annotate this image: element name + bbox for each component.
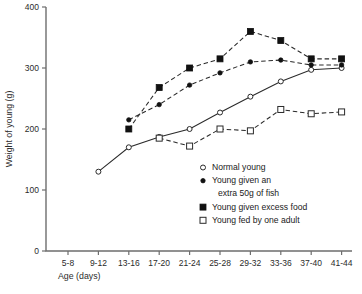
y-axis-tick-label: 400 [25,2,39,12]
data-point-open-circle [218,110,223,115]
legend-label-continued: extra 50g of fish [218,188,279,198]
data-point-filled-circle [218,71,222,75]
data-point-open-circle [96,169,101,174]
data-point-filled-circle [127,118,131,122]
data-point-filled-circle [309,63,313,67]
legend: Normal youngYoung given anextra 50g of f… [200,162,307,225]
data-point-open-square [156,135,162,141]
x-axis-tick-label: 17-20 [148,258,170,268]
data-point-open-circle [201,165,206,170]
x-axis-tick-label: 37-40 [300,258,322,268]
axis-lines [46,7,352,251]
data-point-open-square [247,128,253,134]
data-point-filled-square [278,38,284,44]
data-point-open-square [308,111,314,117]
x-axis-tick-label: 13-16 [118,258,140,268]
y-axis-tick-label: 300 [25,63,39,73]
y-axis-tick-label: 200 [25,124,39,134]
data-point-open-circle [126,145,131,150]
series-4 [156,106,344,149]
x-axis-tick-label: 9-12 [90,258,107,268]
legend-label: Normal young [212,162,266,172]
legend-label: Young given excess food [212,202,307,212]
x-axis-tick-label: 41-44 [331,258,353,268]
x-axis-tick-label: 29-32 [240,258,262,268]
x-axis-tick-label: 33-36 [270,258,292,268]
y-axis-tick-label: 0 [34,246,39,256]
legend-label: Young given an [212,175,271,185]
data-point-open-square [187,143,193,149]
data-point-open-square [217,126,223,132]
y-axis-tick-label: 100 [25,185,39,195]
x-axis-tick-label: 21-24 [179,258,201,268]
data-point-open-square [339,109,345,115]
data-point-filled-square [217,56,223,62]
data-point-filled-square [200,204,206,210]
y-axis-title: Weight of young (g) [4,91,14,168]
data-point-filled-square [187,65,193,71]
x-axis-title: Age (days) [58,271,101,281]
data-point-filled-square [308,56,314,62]
data-point-filled-square [156,85,162,91]
legend-label: Young fed by one adult [212,215,300,225]
data-point-filled-circle [339,63,343,67]
x-axis-tick-label: 25-28 [209,258,231,268]
data-point-filled-square [126,126,132,132]
data-point-open-square [278,106,284,112]
data-point-filled-circle [157,102,161,106]
data-point-filled-circle [248,60,252,64]
weight-of-young-line-chart: 01002003004005-89-1213-1617-2021-2425-28… [0,0,362,294]
x-axis-tick-label: 5-8 [62,258,75,268]
data-point-open-circle [248,94,253,99]
data-point-filled-square [247,28,253,34]
data-point-filled-circle [187,83,191,87]
data-point-open-square [200,217,206,223]
data-point-open-circle [309,67,314,72]
data-point-filled-circle [279,58,283,62]
series-1 [96,66,344,175]
data-point-open-circle [187,127,192,132]
data-point-filled-square [339,56,345,62]
chart-container: 01002003004005-89-1213-1617-2021-2425-28… [0,0,362,294]
data-point-open-circle [278,79,283,84]
data-point-filled-circle [201,179,205,183]
